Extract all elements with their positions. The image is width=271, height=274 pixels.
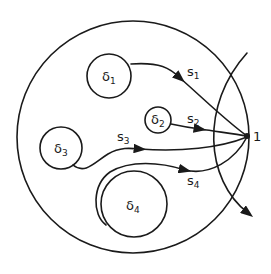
point-1-dot <box>244 133 250 139</box>
path-s3 <box>140 137 247 150</box>
label-d2: δ2 <box>151 112 165 129</box>
label-s1: s1 <box>187 64 200 81</box>
diagram-canvas: 1 δ1 δ2 δ3 δ4 s1 s2 s3 s4 <box>0 0 271 274</box>
obstacle-circle-d4 <box>101 171 167 237</box>
label-d1: δ1 <box>102 69 116 86</box>
path-s4-seg-a <box>96 164 185 226</box>
label-d3: δ3 <box>54 141 68 158</box>
label-s4: s4 <box>187 173 200 190</box>
label-d4: δ4 <box>126 198 140 215</box>
path-s4 <box>185 137 247 171</box>
label-s2: s2 <box>187 111 200 128</box>
point-1-label: 1 <box>253 129 261 144</box>
path-s1-seg-a <box>131 64 180 78</box>
label-s3: s3 <box>117 129 130 146</box>
